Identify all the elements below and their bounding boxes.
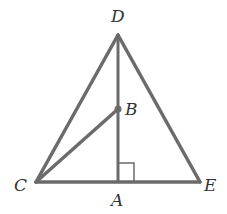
point-b-dot xyxy=(115,106,122,113)
label-c: C xyxy=(14,177,27,194)
label-d: D xyxy=(111,8,125,25)
right-angle-marker xyxy=(118,163,134,182)
label-a: A xyxy=(111,192,123,209)
segment-dc xyxy=(36,35,118,182)
triangle-diagram xyxy=(0,0,227,214)
label-e: E xyxy=(204,177,216,194)
label-b: B xyxy=(125,101,138,118)
segment-cb xyxy=(36,109,118,182)
